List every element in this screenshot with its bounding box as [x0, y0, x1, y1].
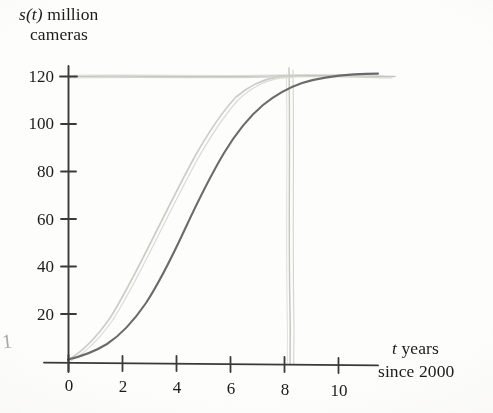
series-pencil-sketch: [68, 76, 293, 362]
y-axis-label-units: million: [43, 4, 99, 24]
y-tick-label-60: 60: [14, 211, 54, 228]
y-tick-label-120: 120: [14, 68, 54, 85]
x-axis: [44, 363, 378, 366]
axes: [44, 66, 378, 372]
y-axis-label-symbol: s(t): [19, 4, 43, 24]
y-axis-label-line2: cameras: [30, 24, 88, 44]
y-axis-label-line1: s(t) million: [19, 4, 98, 24]
x-tick-label-0: 0: [54, 377, 84, 394]
x-axis-label-line2: since 2000: [378, 361, 454, 381]
x-tick-label-4: 4: [162, 379, 192, 396]
y-tick-label-80: 80: [14, 163, 54, 180]
x-axis-label-units: years: [397, 338, 439, 358]
x-tick-label-8: 8: [270, 381, 300, 398]
y-tick-label-20: 20: [14, 306, 54, 323]
x-tick-label-2: 2: [108, 378, 138, 395]
y-tick-label-40: 40: [14, 258, 54, 275]
chart-figure: 120 100 80 60 40 20 0 2 4 6 8 10 s(t) mi…: [0, 0, 493, 413]
y-tick-label-100: 100: [14, 115, 54, 132]
x-tick-label-10: 10: [324, 382, 354, 399]
x-axis-label-line1: t years: [392, 338, 439, 358]
x-tick-label-6: 6: [216, 380, 246, 397]
annotation-vertical-marker: [287, 68, 294, 364]
